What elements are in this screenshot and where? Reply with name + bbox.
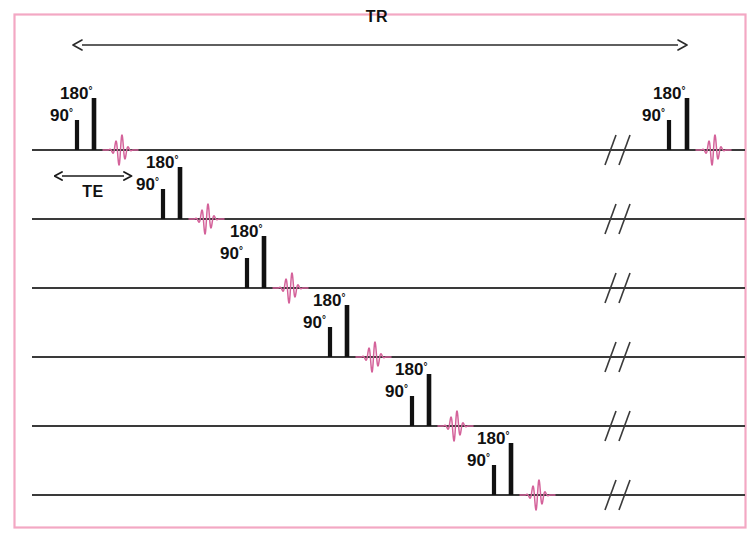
rf-pulse-90-row-1 [75,120,79,150]
rf-pulse-180-row-6 [509,443,514,495]
rf-pulse-90-label-row-4: 90° [303,313,326,332]
rf-pulse-180-row-4 [345,305,350,357]
rf-pulse-180-label-row-3: 180° [230,222,262,241]
rf-pulse-90-row-4 [328,327,332,357]
spin-echo-signal-row-3 [273,273,308,303]
sequence-row-4: 90°180° [32,291,745,372]
rf-pulse-180-label-row-1: 180° [60,84,92,103]
spin-echo-signal-row-1 [696,135,731,165]
rf-pulse-180-label-row-4: 180° [313,291,345,310]
rf-pulse-90-label-row-2: 90° [136,175,159,194]
figure-frame [15,15,746,528]
sequence-row-1: 90°180°90°180° [32,84,745,165]
te-label: TE [82,183,103,200]
sequence-rows: 90°180°90°180°90°180°90°180°90°180°90°18… [32,84,745,510]
rf-pulse-90-row-6 [492,465,496,495]
rf-pulse-90-label-row-6: 90° [467,451,490,470]
rf-pulse-90-label-row-3: 90° [220,244,243,263]
spin-echo-signal-row-2 [189,204,224,234]
rf-pulse-90-label-row-1: 90° [50,106,73,125]
spin-echo-signal-row-1 [103,135,138,165]
diagram-canvas: TR TE 90°180°90°180°90°180°90°180°90°180… [0,0,756,541]
rf-pulse-90-row-3 [245,258,249,288]
rf-pulse-180-row-5 [427,374,432,426]
rf-pulse-180-row-1 [685,98,690,150]
pulse-sequence-figure: TR TE 90°180°90°180°90°180°90°180°90°180… [0,0,756,541]
sequence-row-2: 90°180° [32,153,745,234]
sequence-row-5: 90°180° [32,360,745,441]
rf-pulse-90-label-row-1: 90° [642,106,665,125]
tr-label: TR [366,8,388,25]
rf-pulse-180-row-1 [92,98,97,150]
rf-pulse-180-row-2 [178,167,183,219]
rf-pulse-90-row-2 [161,189,165,219]
rf-pulse-180-label-row-5: 180° [395,360,427,379]
sequence-row-6: 90°180° [32,429,745,510]
rf-pulse-180-label-row-1: 180° [653,84,685,103]
spin-echo-signal-row-6 [520,480,555,510]
rf-pulse-180-label-row-6: 180° [477,429,509,448]
rf-pulse-90-row-5 [410,396,414,426]
rf-pulse-180-row-3 [262,236,267,288]
spin-echo-signal-row-4 [356,342,391,372]
rf-pulse-90-label-row-5: 90° [385,382,408,401]
rf-pulse-180-label-row-2: 180° [146,153,178,172]
sequence-row-3: 90°180° [32,222,745,303]
rf-pulse-90-row-1 [667,120,671,150]
spin-echo-signal-row-5 [438,411,473,441]
